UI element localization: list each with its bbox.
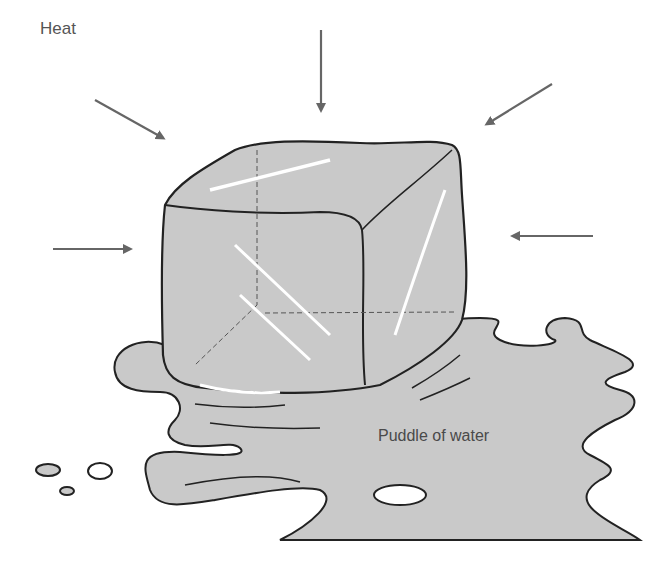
heat-arrow-icon [487, 84, 552, 124]
droplet-small [60, 487, 74, 495]
heat-label: Heat [40, 19, 76, 39]
cube-body [162, 141, 467, 393]
puddle-hole-small [88, 463, 112, 479]
droplet [36, 464, 60, 476]
puddle-label: Puddle of water [378, 427, 489, 445]
heat-arrow-icon [95, 100, 163, 138]
ice-cube [162, 141, 467, 393]
ice-melting-diagram: Heat Puddle of water [0, 0, 663, 567]
puddle-hole [374, 485, 426, 505]
diagram-canvas [0, 0, 663, 567]
